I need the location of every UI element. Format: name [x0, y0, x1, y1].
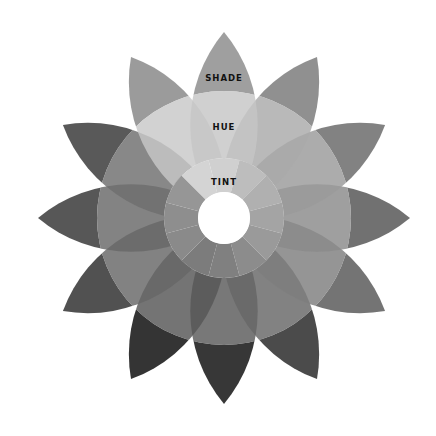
label-hue: HUE	[213, 122, 236, 132]
label-tint: TINT	[211, 177, 237, 187]
center-hole	[198, 192, 250, 244]
color-wheel-svg: SHADE HUE TINT	[0, 0, 436, 436]
label-shade: SHADE	[205, 73, 243, 83]
color-wheel-diagram: SHADE HUE TINT	[0, 0, 436, 436]
